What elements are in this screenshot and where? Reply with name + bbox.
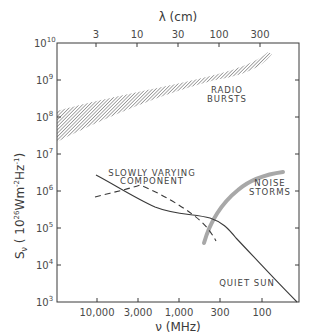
chart: λ (cm) 3 10 30 100 300 1010 109 108 107 … <box>0 0 313 336</box>
svg-text:3,000: 3,000 <box>124 307 153 318</box>
svg-text:1,000: 1,000 <box>165 307 194 318</box>
svg-text:10,000: 10,000 <box>80 307 115 318</box>
top-axis-ticks: 3 10 30 100 300 <box>93 29 270 47</box>
top-tick-label: 300 <box>250 29 269 40</box>
quiet-sun-label: QUIET SUN <box>219 278 275 288</box>
top-tick-label: 10 <box>131 29 144 40</box>
top-tick-label: 3 <box>93 29 99 40</box>
noise-storms-label-2: STORMS <box>249 187 291 197</box>
top-axis-title: λ (cm) <box>159 10 198 24</box>
svg-text:107: 107 <box>36 147 53 160</box>
slowly-varying-curve <box>95 185 216 241</box>
y-axis-title: Sν ( 1026Wm-2Hz-1) <box>13 153 29 259</box>
bottom-axis-title: ν (MHz) <box>155 320 201 334</box>
y-axis-tick-labels: 1010 109 108 107 106 105 104 103 <box>34 36 56 308</box>
bottom-axis-tick-labels: 10,000 3,000 1,000 300 100 <box>80 307 272 318</box>
svg-text:109: 109 <box>36 73 53 86</box>
svg-text:300: 300 <box>210 307 229 318</box>
svg-text:108: 108 <box>36 110 53 123</box>
top-tick-label: 30 <box>172 29 185 40</box>
svg-text:106: 106 <box>36 184 54 197</box>
top-tick-label: 100 <box>209 29 228 40</box>
svg-text:100: 100 <box>252 307 271 318</box>
bottom-axis-ticks <box>97 298 262 302</box>
slowly-varying-label-2: COMPONENT <box>120 176 184 186</box>
svg-text:105: 105 <box>36 221 53 234</box>
radio-bursts-label-2: BURSTS <box>207 94 247 104</box>
svg-text:103: 103 <box>36 295 53 308</box>
svg-text:104: 104 <box>36 258 54 271</box>
svg-text:1010: 1010 <box>34 36 56 49</box>
